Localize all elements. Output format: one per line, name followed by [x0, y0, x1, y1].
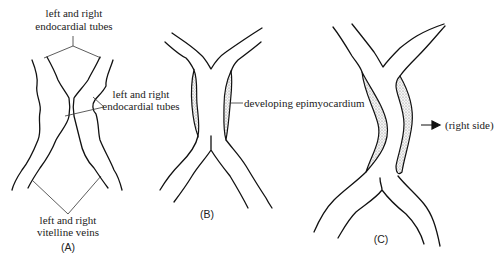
panel-c: (right side) (C) [314, 24, 494, 246]
label-right-side: (right side) [445, 119, 494, 132]
left-tube-inner-wall [28, 57, 70, 188]
right-tube-inner-wall [73, 57, 108, 188]
epimyocardium-right-strip [224, 71, 232, 140]
panel-b-left-upper-outer [165, 42, 194, 70]
panel-b-right-upper-outer [231, 42, 261, 72]
left-tube-outer-wall [12, 60, 40, 190]
leader-line-middle [65, 97, 104, 116]
panel-b-upper-notch [172, 28, 262, 69]
epimyocardium-right-band [396, 76, 412, 174]
panel-c-lower-left-outer [314, 172, 366, 232]
panel-a: left and right endocardial tubes left an… [12, 7, 180, 253]
panel-b-caption: (B) [200, 208, 214, 220]
label-endocardial-tubes-mid-line2: endocardial tubes [102, 100, 179, 112]
panel-b-lower-right-outer [226, 140, 272, 208]
panel-c-upper-notch [352, 24, 444, 67]
leader-line-top [44, 36, 101, 58]
epimyocardium-left-crescent [362, 72, 388, 172]
panel-b-lower-left-outer [160, 136, 198, 190]
epimyocardium-left-strip [191, 70, 198, 136]
panel-a-caption: (A) [61, 241, 75, 253]
label-developing-epimyocardium: developing epimyocardium [244, 97, 365, 109]
panel-c-left-upper-outer [333, 27, 362, 72]
right-tube-outer-wall [93, 60, 122, 190]
label-vitelline-veins-line2: vitelline veins [37, 226, 99, 238]
label-vitelline-veins-line1: left and right [40, 214, 97, 226]
leader-line-bottom [32, 176, 101, 214]
label-endocardial-tubes-top-line2: endocardial tubes [35, 20, 112, 32]
label-endocardial-tubes-mid-line1: left and right [113, 88, 170, 100]
panel-c-caption: (C) [374, 233, 389, 245]
panel-b: developing epimyocardium (B) [160, 28, 365, 220]
heart-tube-fusion-diagram: left and right endocardial tubes left an… [0, 0, 500, 265]
label-endocardial-tubes-top-line1: left and right [46, 7, 103, 19]
panel-c-lower-right-outer [398, 176, 440, 246]
panel-b-lower-notch [174, 136, 248, 208]
right-arrow-icon [421, 121, 440, 129]
